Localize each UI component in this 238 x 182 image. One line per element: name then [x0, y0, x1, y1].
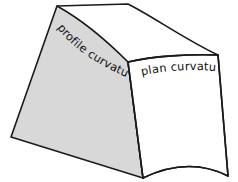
- profile-curvature-face: [11, 6, 143, 178]
- diagram-canvas: profile curvature plan curvature: [0, 0, 238, 182]
- curvature-diagram: profile curvature plan curvature: [0, 0, 238, 182]
